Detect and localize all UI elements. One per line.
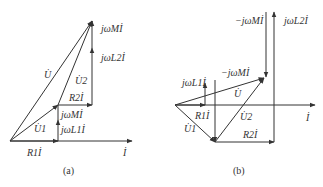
a-label-jwmi-mid: jωMİ	[61, 110, 83, 120]
a-label-i: İ	[123, 148, 126, 158]
b-label-i: İ	[306, 113, 309, 123]
a-label-u: U̇	[44, 70, 51, 80]
b-label-jwl1i: jωL1İ	[182, 78, 206, 88]
a-label-r1i: R1İ	[27, 148, 41, 158]
a-label-u1: U̇1	[34, 124, 46, 134]
a-label-u2: U̇2	[75, 76, 87, 86]
b-label-jwl2i: jωL2İ	[284, 16, 308, 26]
a-label-jwmi-top: jωMİ	[101, 24, 123, 34]
b-label-r1i: R1İ	[195, 111, 209, 121]
b-label-r2i: R2İ	[243, 130, 257, 140]
phasor-diagrams	[0, 0, 323, 187]
b-label-u: U̇	[234, 89, 241, 99]
a-label-r2i: R2İ	[69, 93, 83, 103]
a-label-jwl2i: jωL2İ	[101, 53, 125, 63]
b-label-neg-jwmi-mid: −jωMİ	[221, 68, 249, 78]
a-label-jwl1i: jωL1İ	[61, 125, 85, 135]
b-label-neg-jwmi-top: −jωMİ	[235, 16, 263, 26]
b-label-u1: U̇1	[184, 124, 196, 134]
b-label-u2: U̇2	[240, 112, 252, 122]
b-caption: (b)	[233, 166, 245, 176]
figure-a	[10, 21, 132, 141]
a-caption: (a)	[63, 166, 74, 176]
